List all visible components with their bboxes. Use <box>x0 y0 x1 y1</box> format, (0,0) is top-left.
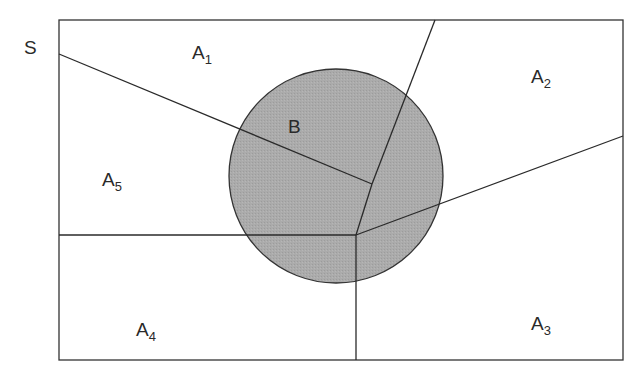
region-label-a3-base: A <box>531 313 544 334</box>
region-label-a3-sub: 3 <box>544 323 551 338</box>
region-label-a1-sub: 1 <box>205 52 212 67</box>
region-label-a5: A5 <box>102 170 122 189</box>
region-label-a1: A1 <box>192 43 212 62</box>
region-label-a2-base: A <box>531 66 544 87</box>
region-label-a5-base: A <box>102 169 115 190</box>
region-label-a5-sub: 5 <box>115 179 122 194</box>
region-label-a3: A3 <box>531 314 551 333</box>
region-label-a4: A4 <box>136 320 156 339</box>
region-label-a1-base: A <box>192 42 205 63</box>
event-b-label: B <box>288 117 301 136</box>
sample-space-label: S <box>24 38 37 57</box>
region-label-a4-base: A <box>136 319 149 340</box>
region-label-a2: A2 <box>531 67 551 86</box>
event-b-circle <box>229 69 443 283</box>
region-label-a2-sub: 2 <box>544 76 551 91</box>
region-label-a4-sub: 4 <box>149 329 156 344</box>
